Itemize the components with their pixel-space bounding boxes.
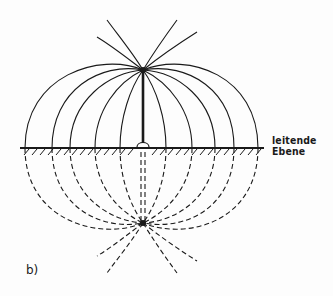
real-charge-dot bbox=[140, 67, 146, 73]
solid-field-lines bbox=[25, 20, 258, 148]
image-charge-dot bbox=[140, 220, 146, 226]
dashed-image-field-lines bbox=[25, 148, 258, 273]
plane-label-line2: Ebene bbox=[272, 146, 317, 157]
panel-label: b) bbox=[26, 263, 38, 277]
conducting-plane-label: leitende Ebene bbox=[272, 135, 317, 157]
feed-point-icon bbox=[137, 143, 149, 148]
plane-hatching bbox=[24, 149, 261, 155]
diagram-canvas: leitende Ebene b) bbox=[0, 0, 333, 296]
